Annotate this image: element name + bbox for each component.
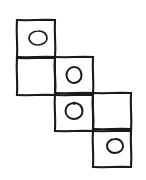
square-edge: [93, 93, 94, 131]
square-edge: [55, 93, 56, 131]
square-edge: [131, 93, 132, 131]
square-edge: [55, 93, 93, 94]
square-edge: [93, 131, 131, 132]
square-edge: [55, 95, 93, 96]
square-edge: [17, 95, 55, 96]
square-edge: [55, 57, 93, 58]
square-edge: [55, 57, 56, 95]
square-edge: [93, 129, 94, 167]
staircase-squares-diagram: [0, 0, 146, 180]
background-rect: [0, 0, 146, 180]
square-edge: [17, 20, 55, 21]
oval-top-notch: [72, 102, 76, 105]
square-edge: [93, 57, 94, 95]
square-edge: [17, 57, 55, 58]
square-edge: [55, 131, 93, 132]
square-edge: [17, 20, 18, 58]
figure-canvas: [0, 0, 146, 180]
square-edge: [17, 57, 18, 95]
square-edge: [93, 93, 131, 94]
square-edge: [93, 167, 131, 168]
square-edge: [55, 20, 56, 58]
square-edge: [93, 129, 131, 130]
square-edge: [131, 129, 132, 167]
